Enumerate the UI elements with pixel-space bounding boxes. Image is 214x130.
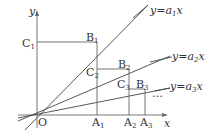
point-a2-label: A2 (123, 116, 136, 130)
diagram-canvas: y x O C1 B1 A1 C2 B2 A2 C3 B3 A3 … y=a1x… (0, 0, 214, 130)
point-b3-label: B3 (136, 78, 149, 92)
line-a3 (18, 88, 170, 118)
line-a1-label: y=a1x (149, 4, 183, 18)
point-b2-label: B2 (118, 58, 131, 72)
lines (18, 5, 172, 130)
line-a3-label: y=a3x (169, 80, 203, 94)
line-a2-label: y=a2x (171, 50, 205, 64)
y-axis-label: y (28, 5, 36, 18)
point-a1-label: A1 (91, 116, 104, 130)
x-axis-label: x (164, 117, 171, 130)
origin-label: O (38, 116, 47, 129)
leader-a1 (133, 5, 148, 18)
point-c3-label: C3 (117, 78, 130, 92)
ellipsis: … (152, 87, 163, 100)
point-b1-label: B1 (86, 31, 99, 45)
point-a3-label: A3 (139, 116, 152, 130)
y-axis-arrow-icon (35, 10, 39, 16)
point-c1-label: C1 (22, 37, 35, 51)
leader-a2 (150, 57, 172, 62)
